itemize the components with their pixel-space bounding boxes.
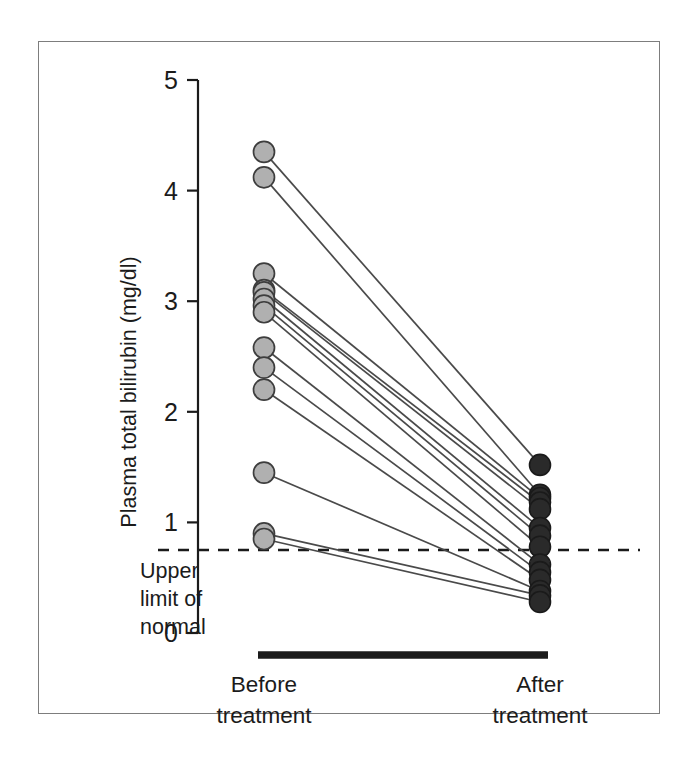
y-tick-label-3: 3 — [164, 287, 178, 315]
after-point — [530, 454, 551, 475]
reference-label-line-3: normal — [140, 615, 206, 639]
before-treatment-points — [254, 141, 275, 549]
slopegraph-chart: 012345 Plasma total bilirubin (mg/dl) Up… — [0, 0, 700, 763]
after-treatment-points — [530, 454, 551, 612]
pair-connector — [271, 373, 533, 567]
y-tick-label-2: 2 — [164, 398, 178, 426]
before-point — [254, 337, 275, 358]
reference-label-line-1: Upper — [140, 559, 199, 583]
after-point — [530, 499, 551, 520]
category-label-before-line-1: Before — [231, 672, 297, 697]
y-tick-label-4: 4 — [164, 177, 178, 205]
upper-limit-annotation: Upperlimit ofnormal — [140, 559, 206, 639]
before-point — [254, 167, 275, 188]
pair-connector — [271, 279, 533, 492]
figure-root: 012345 Plasma total bilirubin (mg/dl) Up… — [0, 0, 700, 763]
after-point — [530, 592, 551, 613]
pair-connector — [271, 353, 533, 559]
before-point — [254, 528, 275, 549]
pair-connector-lines — [270, 159, 534, 600]
before-point — [254, 357, 275, 378]
pair-connector — [271, 318, 533, 541]
pair-connector — [273, 535, 531, 593]
y-axis-title: Plasma total bilirubin (mg/dl) — [117, 256, 141, 527]
pair-connector — [271, 395, 532, 575]
pair-connector — [271, 298, 533, 504]
before-point — [254, 379, 275, 400]
category-label-after-line-1: After — [516, 672, 564, 697]
pair-connector — [271, 296, 533, 497]
before-point — [254, 302, 275, 323]
reference-label-line-2: limit of — [140, 587, 202, 611]
y-tick-label-5: 5 — [164, 66, 178, 94]
before-point — [254, 462, 275, 483]
before-point — [254, 141, 275, 162]
y-tick-label-1: 1 — [164, 508, 178, 536]
category-label-before-line-2: treatment — [216, 703, 312, 728]
category-label-after-line-2: treatment — [492, 703, 588, 728]
category-labels: BeforetreatmentAftertreatment — [216, 672, 588, 728]
